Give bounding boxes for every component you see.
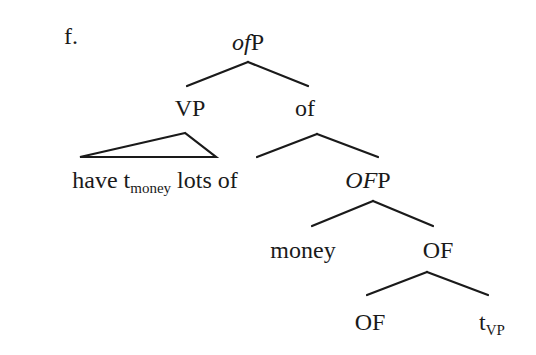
node-OFP: OFP <box>345 168 390 192</box>
node-OFP-rest: P <box>377 167 390 193</box>
node-ofP: ofP <box>232 30 264 54</box>
node-OF-head: OF <box>355 310 386 334</box>
trace-t: t <box>479 309 486 335</box>
node-ofP-italic: of <box>232 29 251 55</box>
node-of-bar: of <box>295 96 315 120</box>
trace-money-subscript: money <box>130 180 171 196</box>
node-ofP-rest: P <box>251 29 264 55</box>
trace-VP-subscript: VP <box>486 322 505 338</box>
vp-yield: have tmoney lots of <box>72 168 237 192</box>
node-OF-bar: OF <box>423 238 454 262</box>
node-money: money <box>270 238 335 262</box>
node-OFP-italic: OF <box>345 167 377 193</box>
node-VP: VP <box>175 96 206 120</box>
vp-yield-pre: have t <box>72 167 130 193</box>
node-trace-VP: tVP <box>479 310 505 334</box>
vp-yield-post: lots of <box>171 167 238 193</box>
